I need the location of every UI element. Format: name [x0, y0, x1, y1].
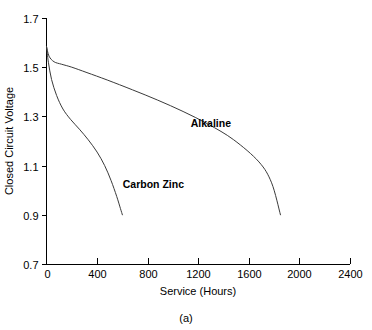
x-tick-label: 2000: [287, 268, 311, 280]
y-tick-label: 1.1: [23, 161, 38, 173]
y-axis-title: Closed Circuit Voltage: [3, 87, 15, 195]
y-tick-label: 1.7: [23, 13, 38, 25]
series-label-carbon-zinc: Carbon Zinc: [123, 178, 184, 190]
x-tick-label: 1600: [237, 268, 261, 280]
y-tick-label: 1.5: [23, 62, 38, 74]
chart-plot: 0.70.91.11.31.51.7 040080012001600200024…: [0, 0, 372, 330]
x-tick-label: 800: [139, 268, 157, 280]
x-axis-ticks: 04008001200160020002400: [44, 258, 362, 280]
figure-container: 0.70.91.11.31.51.7 040080012001600200024…: [0, 0, 372, 330]
x-tick-label: 2400: [338, 268, 362, 280]
series-annotations: AlkalineCarbon Zinc: [123, 117, 231, 189]
figure-caption: (a): [179, 312, 192, 324]
y-tick-label: 0.7: [23, 259, 38, 271]
x-tick-label: 1200: [186, 268, 210, 280]
x-tick-label: 0: [44, 268, 50, 280]
x-axis-title: Service (Hours): [160, 285, 236, 297]
series-label-alkaline: Alkaline: [191, 117, 231, 129]
y-axis-ticks: 0.70.91.11.31.51.7: [23, 13, 46, 271]
y-tick-label: 0.9: [23, 210, 38, 222]
y-tick-label: 1.3: [23, 111, 38, 123]
x-tick-label: 400: [88, 268, 106, 280]
